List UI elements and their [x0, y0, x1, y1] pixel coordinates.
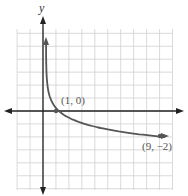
curve-arrow-up	[43, 37, 49, 45]
point-9-neg2-label: (9, −2)	[142, 140, 172, 153]
point-1-0-label: (1, 0)	[61, 94, 85, 107]
curve	[46, 40, 165, 137]
graph: y (1, 0) (9, −2)	[0, 0, 188, 196]
y-axis-label: y	[38, 1, 45, 15]
grid-lines	[17, 29, 173, 190]
x-axis	[4, 108, 184, 114]
point-9-neg2	[158, 134, 162, 138]
point-1-0	[54, 109, 58, 113]
